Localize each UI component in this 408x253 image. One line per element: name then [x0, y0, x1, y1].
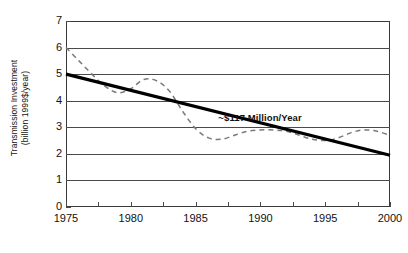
- y-axis-tick-label: 1: [46, 174, 62, 185]
- transmission-investment-chart: Transmission Investment (billion 1999$/y…: [0, 0, 408, 253]
- y-axis-tick-label: 3: [46, 121, 62, 132]
- y-axis-title-line1: Transmission Investment: [9, 59, 20, 155]
- y-axis-tick-label: 4: [46, 95, 62, 106]
- x-axis-tick-label: 1980: [111, 212, 151, 224]
- y-axis-title-line2: (billion 1999$/year): [20, 59, 31, 155]
- y-axis-tick: [66, 207, 71, 208]
- series-actual-investment: [66, 48, 390, 141]
- x-axis-tick-label: 1975: [46, 212, 86, 224]
- y-axis-tick-label: 6: [46, 42, 62, 53]
- y-axis-title: Transmission Investment (billion 1999$/y…: [0, 0, 40, 215]
- x-axis-tick-label: 1985: [176, 212, 216, 224]
- x-axis-tick-label: 2000: [370, 212, 408, 224]
- x-axis-tick: [390, 202, 391, 207]
- x-axis-tick-label: 1995: [305, 212, 345, 224]
- x-axis-tick-label: 1990: [240, 212, 280, 224]
- y-axis-tick-label: 2: [46, 148, 62, 159]
- slope-annotation: ~$117 Million/Year: [218, 112, 301, 123]
- y-axis-tick-label: 5: [46, 68, 62, 79]
- y-axis-tick-label: 0: [46, 201, 62, 212]
- y-axis-tick-label: 7: [46, 15, 62, 26]
